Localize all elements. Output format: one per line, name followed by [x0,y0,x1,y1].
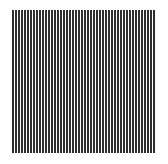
vertical-stripe-pattern [12,10,155,153]
image-canvas [0,0,168,164]
